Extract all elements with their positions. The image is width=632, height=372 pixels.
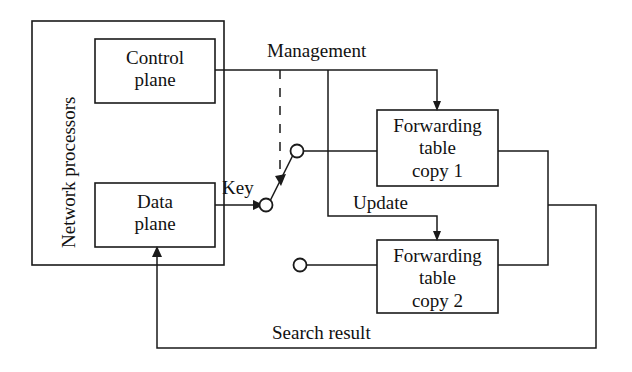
ft1-label-line3: copy 1: [377, 160, 498, 182]
switch-contact-lower-node[interactable]: [294, 259, 307, 272]
ft2-label-line2: table: [377, 267, 498, 289]
search-result-label: Search result: [272, 322, 371, 344]
control-plane-label-line2: plane: [95, 69, 215, 91]
control-plane-label: Control plane: [95, 47, 215, 92]
forwarding-tables-output-bus: [498, 151, 548, 265]
diagram-canvas: Network processors Control plane Data pl…: [0, 0, 632, 372]
ft1-label-line2: table: [377, 137, 498, 159]
network-processors-label: Network processors: [58, 97, 80, 248]
ft1-label-line1: Forwarding: [377, 115, 498, 137]
management-wire: [215, 70, 437, 104]
ft2-label-line3: copy 2: [377, 290, 498, 312]
data-plane-label-line2: plane: [95, 213, 215, 235]
forwarding-table-copy-2-label: Forwarding table copy 2: [377, 245, 498, 312]
switch-contact-upper-node[interactable]: [291, 145, 304, 158]
forwarding-table-copy-1-label: Forwarding table copy 1: [377, 115, 498, 182]
control-plane-label-line1: Control: [95, 47, 215, 69]
key-label: Key: [222, 177, 254, 199]
management-label: Management: [267, 40, 366, 62]
data-plane-label-line1: Data: [95, 191, 215, 213]
update-label: Update: [353, 192, 408, 214]
switch-control-arrowhead: [275, 174, 286, 186]
switch-pivot-node[interactable]: [260, 199, 273, 212]
ft2-label-line1: Forwarding: [377, 245, 498, 267]
data-plane-label: Data plane: [95, 191, 215, 236]
